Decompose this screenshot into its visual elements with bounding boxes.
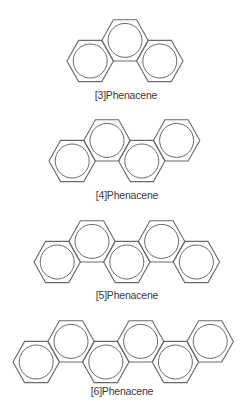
aromatic-circle — [19, 345, 53, 379]
molecule-label: [5]Phenacene — [96, 289, 159, 301]
benzene-ring-hexagon — [67, 40, 113, 81]
aromatic-circle — [143, 44, 177, 78]
aromatic-circle — [158, 345, 192, 379]
molecule-label: [3]Phenacene — [95, 89, 158, 101]
aromatic-circle — [124, 324, 158, 358]
benzene-ring-hexagon — [48, 321, 94, 362]
benzene-ring-hexagon — [173, 241, 219, 282]
benzene-ring-hexagon — [102, 20, 148, 61]
ring-group — [34, 221, 220, 283]
molecule-phenacene-5: [5]Phenacene — [34, 221, 220, 301]
molecule-label: [4]Phenacene — [96, 189, 159, 201]
aromatic-circle — [89, 345, 123, 379]
benzene-ring-hexagon — [69, 221, 115, 262]
benzene-ring-hexagon — [84, 120, 130, 161]
phenacene-diagram: [3]Phenacene [4]Phenacene [5]Phenacene [… — [0, 0, 247, 408]
molecule-phenacene-3: [3]Phenacene — [67, 20, 183, 101]
aromatic-circle — [145, 224, 179, 258]
benzene-ring-hexagon — [34, 241, 80, 282]
benzene-ring-hexagon — [49, 140, 95, 181]
benzene-ring-hexagon — [13, 341, 59, 382]
aromatic-circle — [193, 324, 227, 358]
ring-group — [49, 120, 200, 182]
aromatic-circle — [90, 123, 124, 157]
ring-group — [13, 321, 233, 383]
benzene-ring-hexagon — [117, 321, 163, 362]
molecule-phenacene-6: [6]Phenacene — [13, 321, 233, 397]
aromatic-circle — [160, 123, 194, 157]
ring-group — [67, 20, 183, 82]
aromatic-circle — [125, 144, 159, 178]
benzene-ring-hexagon — [104, 241, 150, 282]
aromatic-circle — [55, 144, 89, 178]
molecule-label: [6]Phenacene — [91, 385, 154, 397]
benzene-ring-hexagon — [152, 341, 198, 382]
aromatic-circle — [40, 245, 74, 279]
benzene-ring-hexagon — [153, 120, 199, 161]
aromatic-circle — [75, 224, 109, 258]
benzene-ring-hexagon — [187, 321, 233, 362]
aromatic-circle — [179, 245, 213, 279]
molecule-phenacene-4: [4]Phenacene — [49, 120, 200, 201]
benzene-ring-hexagon — [137, 40, 183, 81]
aromatic-circle — [73, 44, 107, 78]
aromatic-circle — [110, 245, 144, 279]
aromatic-circle — [54, 324, 88, 358]
aromatic-circle — [108, 23, 142, 57]
benzene-ring-hexagon — [119, 140, 165, 181]
benzene-ring-hexagon — [83, 341, 129, 382]
benzene-ring-hexagon — [138, 221, 184, 262]
